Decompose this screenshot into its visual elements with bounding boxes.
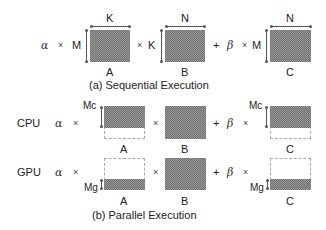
matrix-C — [270, 30, 311, 62]
dim-arrow-B-cols — [166, 26, 205, 27]
dim-label-C-rows: M — [252, 40, 261, 51]
matrix-label-A: A — [120, 196, 127, 207]
dim-arrow-Mg-C — [267, 180, 268, 189]
matrix-label-B: B — [181, 196, 188, 207]
beta-symbol: β — [227, 118, 233, 129]
matrix-B-gpu — [165, 158, 206, 190]
caption-sequential: (a) Sequential Execution — [89, 80, 209, 91]
dim-arrow-B-rows — [161, 30, 162, 62]
times-operator: × — [58, 41, 63, 50]
partition-label-Mc-C: Mc — [249, 101, 262, 111]
caption-parallel: (b) Parallel Execution — [92, 210, 197, 221]
times-operator: × — [153, 119, 158, 128]
dim-label-A-cols: K — [106, 13, 113, 24]
dim-label-A-rows: M — [72, 40, 81, 51]
plus-operator: + — [213, 118, 219, 129]
dim-arrow-A-rows — [86, 30, 87, 62]
matrix-A-cpu-partition — [104, 106, 145, 128]
matrix-C-cpu-partition — [270, 106, 311, 128]
cpu-label: CPU — [17, 118, 40, 129]
alpha-symbol: α — [41, 40, 48, 51]
matrix-A — [90, 30, 130, 62]
plus-operator: + — [213, 167, 219, 178]
matrix-label-B: B — [181, 67, 188, 78]
matrix-label-C: C — [286, 144, 294, 155]
dim-label-B-cols: N — [181, 13, 189, 24]
times-operator: × — [242, 41, 247, 50]
dim-label-C-cols: N — [286, 13, 294, 24]
dim-arrow-C-cols — [271, 26, 311, 27]
dim-arrow-C-rows — [266, 30, 267, 62]
matrix-C-gpu-partition — [270, 179, 311, 190]
times-operator: × — [137, 41, 142, 50]
times-operator: × — [73, 119, 78, 128]
times-operator: × — [243, 168, 248, 177]
partition-label-Mg-C: Mg — [250, 183, 264, 193]
matrix-B-cpu — [165, 106, 206, 139]
partition-label-Mg-A: Mg — [84, 183, 98, 193]
matrix-label-C: C — [286, 196, 294, 207]
dim-arrow-Mg-A — [101, 180, 102, 189]
times-operator: × — [243, 119, 248, 128]
alpha-symbol: α — [55, 167, 62, 178]
matrix-label-A: A — [106, 67, 113, 78]
matrix-A-gpu-partition — [104, 179, 145, 190]
matrix-label-C: C — [286, 67, 294, 78]
partition-label-Mc-A: Mc — [83, 101, 96, 111]
times-operator: × — [153, 168, 158, 177]
matrix-label-B: B — [181, 144, 188, 155]
dim-arrow-A-cols — [91, 26, 130, 27]
matrix-label-A: A — [120, 144, 127, 155]
dim-arrow-Mc-A — [101, 107, 102, 127]
dim-arrow-Mc-C — [266, 107, 267, 127]
gpu-label: GPU — [17, 167, 41, 178]
alpha-symbol: α — [55, 118, 62, 129]
beta-symbol: β — [227, 167, 233, 178]
dim-label-B-rows: K — [148, 40, 155, 51]
times-operator: × — [73, 168, 78, 177]
beta-symbol: β — [227, 40, 233, 51]
plus-operator: + — [213, 40, 219, 51]
matrix-B — [165, 30, 205, 62]
